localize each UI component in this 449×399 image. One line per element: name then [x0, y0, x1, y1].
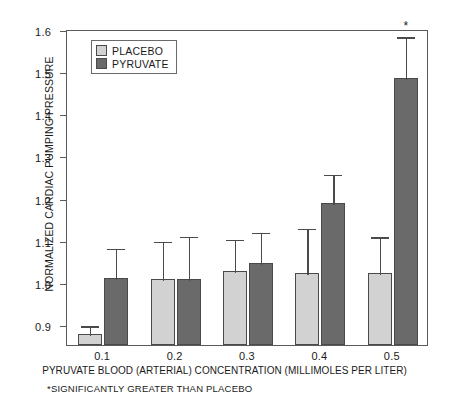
legend-item-placebo: PLACEBO [96, 44, 169, 57]
error-bar-placebo-0.4 [307, 229, 308, 275]
y-axis-tick-label: 1.6 [35, 26, 51, 38]
legend-swatch-pyruvate [96, 58, 107, 69]
significance-asterisk: * [403, 22, 408, 30]
error-bar-pyruvate-0.5 [406, 37, 407, 80]
legend-item-pyruvate: PYRUVATE [96, 57, 169, 70]
error-bar-cap-placebo-0.5 [371, 237, 389, 238]
y-axis-tick-label: 1.3 [35, 152, 51, 164]
bar-placebo-0.5 [368, 273, 392, 345]
x-axis-tick-label: 0.5 [384, 350, 400, 362]
y-axis-tick-label: 1.0 [35, 279, 51, 291]
error-bar-pyruvate-0.2 [189, 237, 190, 281]
y-axis-tick-label: 1.2 [35, 195, 51, 207]
error-bar-cap-pyruvate-0.3 [252, 233, 270, 234]
bar-placebo-0.3 [223, 271, 247, 345]
error-bar-cap-placebo-0.3 [226, 240, 244, 241]
y-axis-tick-label: 1.5 [35, 68, 51, 80]
bar-placebo-0.4 [295, 273, 319, 345]
x-axis-title: PYRUVATE BLOOD (ARTERIAL) CONCENTRATION … [0, 365, 449, 376]
y-axis-tick: 1.4 [60, 115, 67, 116]
y-axis-tick: 1.0 [60, 284, 67, 285]
bar-pyruvate-0.5 [394, 78, 418, 345]
legend-label-placebo: PLACEBO [112, 45, 163, 57]
x-axis-tick-label: 0.3 [239, 350, 255, 362]
y-axis-tick-label: 0.9 [35, 321, 51, 333]
error-bar-pyruvate-0.4 [333, 175, 334, 204]
y-axis-tick: 0.9 [60, 326, 67, 327]
y-axis-tick-label: 1.4 [35, 110, 51, 122]
plot-area: 0.91.01.11.21.31.41.51.6 * PLACEBOPYRUVA… [66, 30, 428, 346]
bar-placebo-0.2 [151, 279, 175, 345]
y-axis-tick: 1.5 [60, 73, 67, 74]
bar-pyruvate-0.4 [321, 203, 345, 345]
error-bar-cap-placebo-0.4 [298, 229, 316, 230]
y-axis-tick-label: 1.1 [35, 237, 51, 249]
y-axis-tick: 1.3 [60, 157, 67, 158]
y-axis-tick: 1.1 [60, 242, 67, 243]
error-bar-cap-placebo-0.2 [154, 242, 172, 243]
bar-pyruvate-0.1 [104, 278, 128, 345]
bar-pyruvate-0.3 [249, 263, 273, 345]
chart-footnote: *SIGNIFICANTLY GREATER THAN PLACEBO [47, 383, 252, 394]
error-bar-cap-pyruvate-0.5 [397, 37, 415, 38]
error-bar-cap-pyruvate-0.4 [324, 175, 342, 176]
x-axis-tick-label: 0.2 [167, 350, 183, 362]
bar-pyruvate-0.2 [177, 279, 201, 345]
legend-label-pyruvate: PYRUVATE [112, 58, 169, 70]
y-axis-tick: 1.6 [60, 31, 67, 32]
y-axis-tick: 1.2 [60, 200, 67, 201]
error-bar-pyruvate-0.1 [116, 249, 117, 280]
legend-swatch-placebo [96, 45, 107, 56]
error-bar-cap-pyruvate-0.1 [107, 249, 125, 250]
error-bar-cap-pyruvate-0.2 [180, 237, 198, 238]
error-bar-cap-placebo-0.1 [81, 326, 99, 327]
error-bar-placebo-0.2 [163, 242, 164, 281]
bar-chart-figure: NORMALIZED CARDIAC PUMPING PRESSURE 0.91… [0, 0, 449, 399]
x-axis-tick-label: 0.4 [311, 350, 327, 362]
error-bar-pyruvate-0.3 [261, 233, 262, 265]
error-bar-placebo-0.5 [380, 237, 381, 274]
chart-legend: PLACEBOPYRUVATE [91, 40, 177, 74]
error-bar-placebo-0.3 [235, 240, 236, 274]
error-bar-placebo-0.1 [90, 326, 91, 336]
x-axis-tick-label: 0.1 [94, 350, 110, 362]
